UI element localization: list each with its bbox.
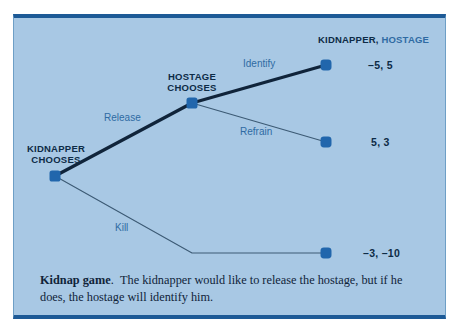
payoff-header-player1: KIDNAPPER, bbox=[318, 34, 379, 45]
payoff-header-player2: HOSTAGE bbox=[381, 34, 429, 45]
caption-title: Kidnap game bbox=[40, 273, 111, 287]
payoff-kill: –3, –10 bbox=[363, 248, 400, 260]
edge-label-release: Release bbox=[104, 112, 141, 123]
node-label-hostage-chooses: HOSTAGE CHOOSES bbox=[150, 72, 234, 93]
edge-label-kill: Kill bbox=[115, 222, 128, 233]
node-label-hostage-chooses-line2: CHOOSES bbox=[150, 83, 234, 94]
edge-label-refrain: Refrain bbox=[240, 126, 272, 137]
kidnap-game-figure: KIDNAPPER, HOSTAGE HOSTAGE CHOOSES KIDNA… bbox=[0, 0, 459, 333]
edge-label-identify: Identify bbox=[243, 58, 275, 69]
payoff-release-refrain: 5, 3 bbox=[371, 137, 390, 149]
figure-caption: Kidnap game. The kidnapper would like to… bbox=[40, 272, 430, 307]
payoff-header: KIDNAPPER, HOSTAGE bbox=[318, 35, 429, 46]
node-label-kidnapper-chooses: KIDNAPPER CHOOSES bbox=[10, 144, 102, 165]
payoff-release-identify: –5, 5 bbox=[368, 60, 393, 72]
node-label-kidnapper-chooses-line2: CHOOSES bbox=[10, 155, 102, 166]
caption-period: . bbox=[111, 273, 114, 287]
